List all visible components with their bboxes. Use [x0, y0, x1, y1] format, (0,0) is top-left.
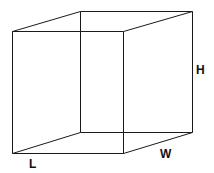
edge-depth-bottom-right: [124, 133, 193, 154]
width-label: W: [160, 147, 172, 161]
box-dimensions-diagram: L W H: [0, 0, 214, 173]
edge-depth-top-left: [13, 12, 81, 32]
edge-depth-top-right: [124, 12, 193, 32]
dimension-labels: L W H: [29, 63, 205, 171]
box-wireframe: [13, 12, 193, 154]
edge-depth-bottom-left: [13, 133, 81, 154]
height-label: H: [196, 63, 205, 77]
length-label: L: [29, 157, 36, 171]
